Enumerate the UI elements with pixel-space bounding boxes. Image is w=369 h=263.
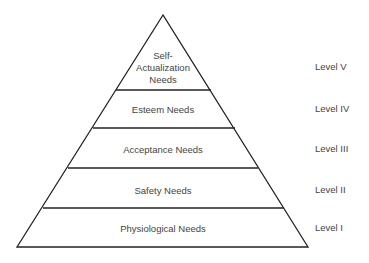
level-3-label: Level III (315, 143, 348, 154)
tier-self-actualization: Self- Actualization Needs (123, 50, 203, 86)
level-5-label: Level V (315, 61, 347, 72)
tier-safety: Safety Needs (93, 185, 233, 197)
level-4-label: Level IV (315, 103, 349, 114)
tier-acceptance: Acceptance Needs (93, 144, 233, 156)
tier-physiological: Physiological Needs (83, 223, 243, 235)
tier-line: Actualization (123, 62, 203, 74)
level-1-label: Level I (315, 222, 343, 233)
tier-line: Needs (123, 74, 203, 86)
tier-line: Self- (123, 50, 203, 62)
level-2-label: Level II (315, 184, 346, 195)
tier-esteem: Esteem Needs (103, 104, 223, 116)
